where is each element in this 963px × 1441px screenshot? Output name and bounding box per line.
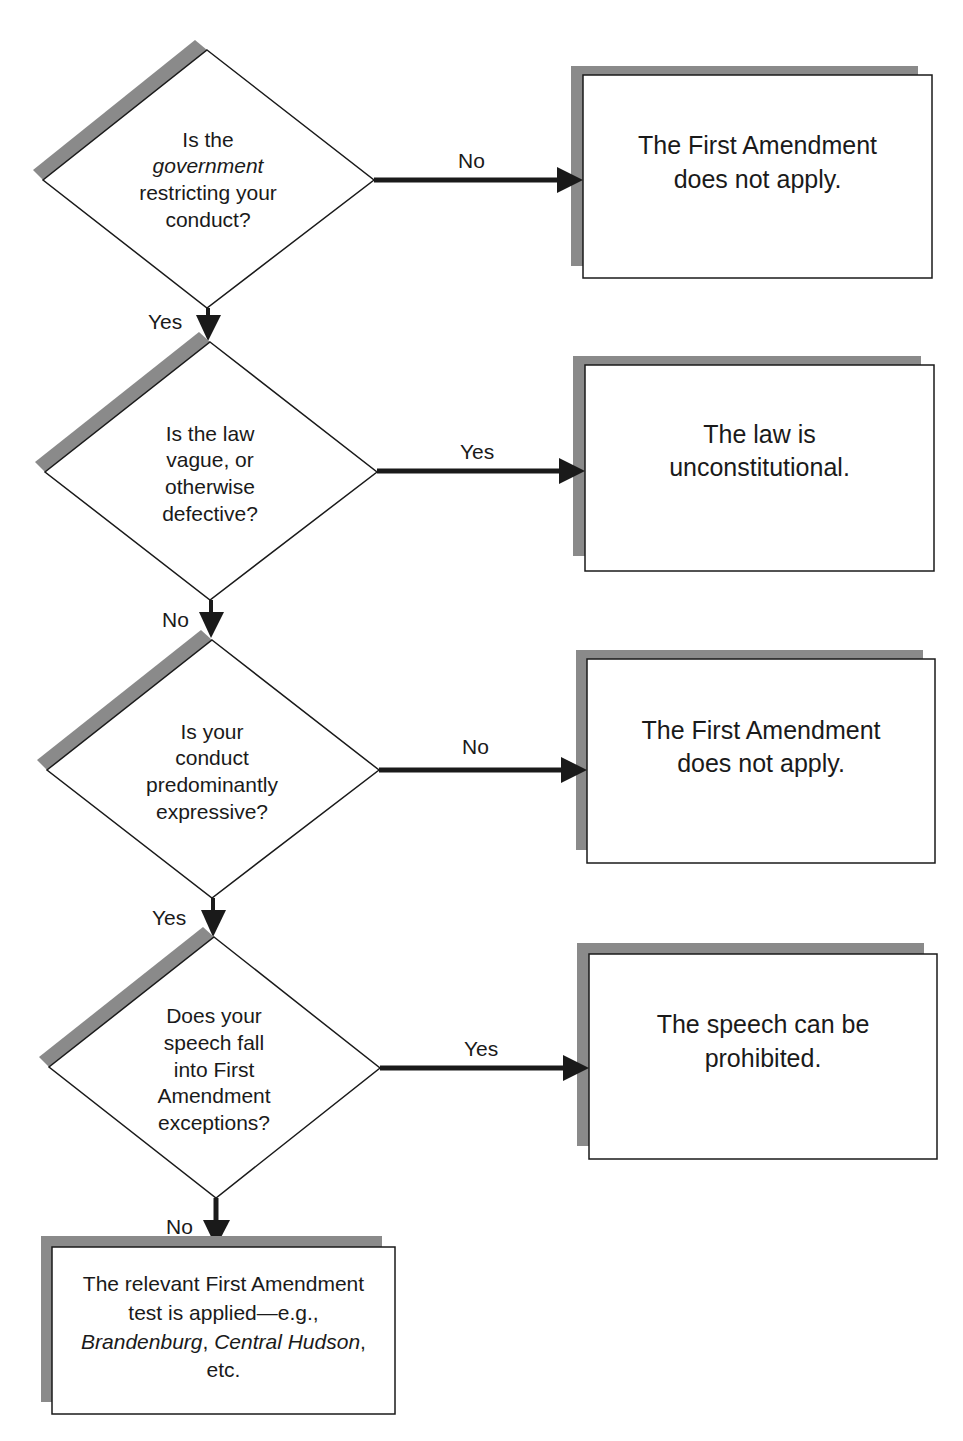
decision-2-line: Is the law bbox=[166, 421, 255, 448]
trailing-comma: , bbox=[360, 1330, 366, 1353]
branch-label-3-right: No bbox=[462, 736, 489, 757]
separator: , bbox=[203, 1330, 215, 1353]
decision-3-line: conduct bbox=[175, 745, 249, 772]
decision-3-text: Is your conduct predominantly expressive… bbox=[114, 712, 310, 832]
decision-2-text: Is the law vague, or otherwise defective… bbox=[112, 414, 308, 534]
final-outcome-line-4: etc. bbox=[207, 1356, 241, 1385]
branch-label-1-down: Yes bbox=[148, 311, 182, 332]
final-outcome-text: The relevant First Amendment test is app… bbox=[52, 1247, 395, 1414]
outcome-1-line: The First Amendment bbox=[638, 129, 877, 162]
outcome-1-text: The First Amendment does not apply. bbox=[583, 75, 932, 278]
decision-3-line: expressive? bbox=[156, 799, 268, 826]
decision-1-text: Is the government restricting your condu… bbox=[110, 120, 306, 240]
decision-1-line: Is the bbox=[182, 127, 233, 154]
outcome-4-line: prohibited. bbox=[705, 1042, 822, 1075]
decision-2-line: vague, or bbox=[166, 447, 254, 474]
outcome-4-text: The speech can be prohibited. bbox=[589, 954, 937, 1159]
decision-4-line: into First bbox=[174, 1057, 255, 1084]
decision-3-line: Is your bbox=[180, 719, 243, 746]
decision-2-line: otherwise bbox=[165, 474, 255, 501]
decision-3-line: predominantly bbox=[146, 772, 278, 799]
final-outcome-line-3: Brandenburg, Central Hudson, bbox=[81, 1328, 366, 1357]
final-outcome-line-1: The relevant First Amendment bbox=[83, 1270, 364, 1299]
branch-label-4-down: No bbox=[166, 1216, 193, 1237]
branch-label-2-right: Yes bbox=[460, 441, 494, 462]
decision-2-line: defective? bbox=[162, 501, 258, 528]
outcome-1-line: does not apply. bbox=[674, 163, 842, 196]
decision-4-line: exceptions? bbox=[158, 1110, 270, 1137]
branch-label-4-right: Yes bbox=[464, 1038, 498, 1059]
case-name-brandenburg: Brandenburg bbox=[81, 1330, 202, 1353]
branch-label-1-right: No bbox=[458, 150, 485, 171]
outcome-3-line: The First Amendment bbox=[642, 714, 881, 747]
outcome-2-text: The law is unconstitutional. bbox=[585, 365, 934, 571]
decision-4-line: Amendment bbox=[157, 1083, 270, 1110]
decision-4-text: Does your speech fall into First Amendme… bbox=[116, 996, 312, 1144]
decision-4-line: Does your bbox=[166, 1003, 262, 1030]
branch-label-2-down: No bbox=[162, 609, 189, 630]
outcome-3-text: The First Amendment does not apply. bbox=[587, 659, 935, 863]
outcome-2-line: unconstitutional. bbox=[669, 451, 850, 484]
decision-1-line: conduct? bbox=[165, 207, 250, 234]
outcome-3-line: does not apply. bbox=[677, 747, 845, 780]
outcome-2-line: The law is bbox=[703, 418, 816, 451]
decision-4-line: speech fall bbox=[164, 1030, 264, 1057]
arrow-right-3 bbox=[379, 757, 587, 783]
case-name-central-hudson: Central Hudson bbox=[214, 1330, 360, 1353]
decision-1-line-italic: government bbox=[153, 153, 264, 180]
branch-label-3-down: Yes bbox=[152, 907, 186, 928]
final-outcome-line-2: test is applied—e.g., bbox=[128, 1299, 318, 1328]
outcome-4-line: The speech can be bbox=[657, 1008, 870, 1041]
decision-1-line: restricting your bbox=[139, 180, 277, 207]
